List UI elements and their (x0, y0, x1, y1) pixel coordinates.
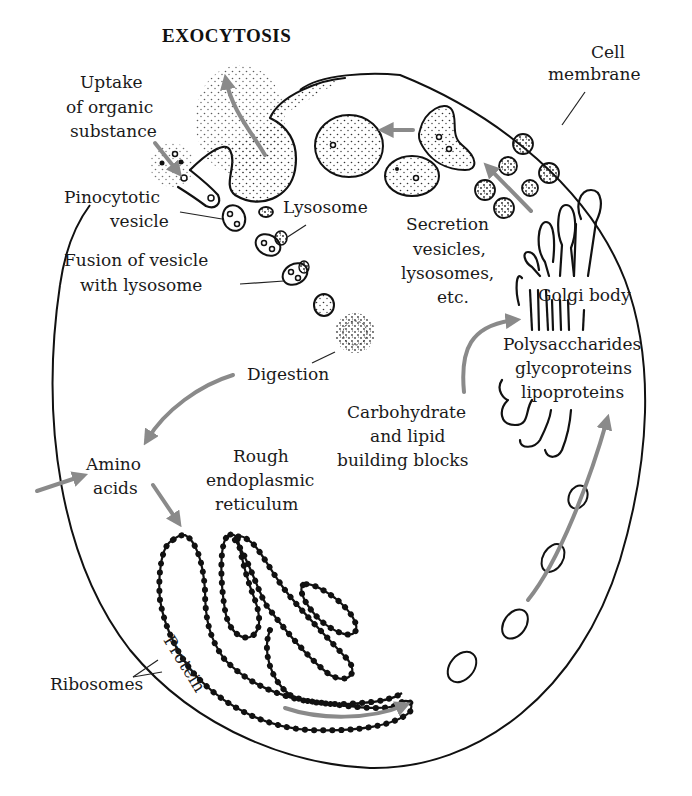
digestion-cloud (335, 313, 375, 353)
uptake-particle (173, 152, 178, 157)
pinocytotic-vesicle-small-2 (208, 195, 214, 201)
label-polysaccharides: Polysaccharides (503, 334, 641, 354)
label-lipoproteins: lipoproteins (521, 382, 624, 402)
pinocytotic-vesicle (219, 202, 249, 234)
secretion-vesicle (539, 163, 559, 183)
vesicle-content (228, 212, 233, 217)
transport-vesicle (497, 605, 533, 644)
exocytosis-stipple (195, 65, 285, 175)
vesicle-content (235, 222, 240, 227)
cell-membrane-leader (562, 92, 585, 125)
vesicle-content (331, 143, 336, 148)
vesicle-content (395, 167, 399, 171)
label-protein: Protein (160, 632, 210, 696)
vesicle-content (447, 147, 452, 152)
label-ribosomes: Ribosomes (50, 674, 143, 694)
kidney-vesicle (385, 156, 439, 196)
label-glycoproteins: glycoproteins (515, 358, 632, 378)
carbohydrate-arrow (463, 320, 515, 392)
secretion-vesicle (513, 134, 533, 154)
digestion-arrow (147, 375, 233, 440)
uptake-particle (160, 161, 165, 166)
vesicle-content (289, 270, 294, 275)
label-pinocytotic-1: Pinocytotic (64, 187, 160, 207)
secretion-vesicle (475, 180, 495, 200)
vesicle-content (270, 247, 275, 252)
uptake-particle (179, 160, 184, 165)
amino-to-er-arrow (153, 485, 178, 522)
label-carbohydrate-2: and lipid (370, 426, 446, 446)
cell-membrane-outline-left (60, 205, 90, 285)
label-amino-acids-1: Amino (85, 454, 141, 474)
label-secretion-3: lysosomes, (401, 263, 494, 283)
label-secretion-2: vesicles, (412, 239, 486, 259)
label-rough-er-1: Rough (233, 446, 289, 466)
lysosome-organelle (259, 207, 273, 217)
secretion-vesicle (522, 180, 538, 196)
label-fusion-1: Fusion of vesicle (64, 250, 208, 270)
label-carbohydrate-3: building blocks (337, 450, 468, 470)
secretion-vesicle (499, 157, 517, 175)
label-uptake-1: Uptake (80, 72, 143, 92)
label-cell-membrane-2: membrane (548, 64, 640, 84)
label-rough-er-2: endoplasmic (206, 470, 314, 490)
label-cell-membrane-1: Cell (591, 42, 625, 62)
label-digestion: Digestion (247, 364, 329, 384)
transport-vesicle (442, 646, 482, 687)
lysosome-leader (286, 225, 306, 238)
title-exocytosis: EXOCYTOSIS (162, 25, 291, 46)
er-to-golgi-arrow (528, 420, 607, 600)
label-uptake-3: substance (70, 121, 157, 141)
golgi-body (500, 190, 601, 457)
fusion-lysosome-2 (299, 261, 309, 273)
pinocytotic-vesicle-small (181, 175, 187, 181)
label-carbohydrate-1: Carbohydrate (347, 402, 466, 422)
pinocytotic-leader (180, 212, 222, 219)
digesting-vesicle (314, 294, 334, 316)
label-amino-acids-2: acids (93, 478, 138, 498)
digestion-leader (312, 352, 335, 363)
vesicle-content (296, 276, 301, 281)
large-vesicle (315, 115, 383, 177)
label-golgi-body: Golgi body (538, 285, 631, 305)
label-uptake-2: of organic (66, 97, 153, 117)
label-fusion-2: with lysosome (80, 275, 202, 295)
vesicle-content (262, 241, 267, 246)
label-rough-er-3: reticulum (215, 494, 298, 514)
secretion-vesicle (494, 198, 514, 218)
label-lysosome: Lysosome (283, 197, 368, 217)
fusion-leader (240, 281, 284, 284)
label-secretion-4: etc. (437, 287, 469, 307)
cell-secretion-diagram: EXOCYTOSIS Cell membrane Uptake of organ… (0, 0, 692, 796)
label-secretion-1: Secretion (406, 214, 489, 234)
rough-endoplasmic-reticulum (159, 534, 411, 730)
fusion-lysosome-1 (275, 231, 287, 245)
label-pinocytotic-2: vesicle (109, 211, 169, 231)
vesicle-content (437, 135, 442, 140)
vesicle-content (414, 176, 419, 181)
